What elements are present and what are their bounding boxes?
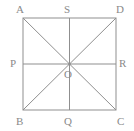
- geometry-figure: A S D P O R B Q C: [0, 0, 134, 131]
- vertex-label-p: P: [10, 58, 16, 69]
- center-point-marker: [68, 63, 71, 66]
- figure-canvas: [0, 0, 134, 131]
- vertex-label-r: R: [119, 58, 126, 69]
- vertex-label-q: Q: [64, 116, 72, 127]
- vertex-label-s: S: [64, 4, 70, 15]
- vertex-label-d: D: [116, 4, 124, 15]
- vertex-label-o: O: [64, 69, 72, 80]
- vertex-label-b: B: [16, 116, 23, 127]
- vertex-label-c: C: [117, 116, 124, 127]
- vertex-label-a: A: [16, 4, 24, 15]
